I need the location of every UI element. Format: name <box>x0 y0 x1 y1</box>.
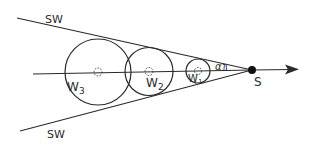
circle-w3-center <box>94 68 102 76</box>
axis-arrow-line <box>252 70 292 71</box>
wedge-diagram: SW SW W3 W2 W1 α1 S <box>0 0 309 146</box>
label-alpha: α1 <box>215 61 227 73</box>
sw-line-bottom <box>20 70 252 131</box>
angle-arc <box>226 65 227 71</box>
label-sw-top: SW <box>45 13 63 26</box>
label-w2: W2 <box>146 76 164 92</box>
label-sw-bottom: SW <box>47 128 65 141</box>
label-w3: W3 <box>67 80 85 96</box>
label-apex-s: S <box>254 75 262 89</box>
label-w1: W1 <box>188 73 202 86</box>
apex-point <box>248 66 256 74</box>
